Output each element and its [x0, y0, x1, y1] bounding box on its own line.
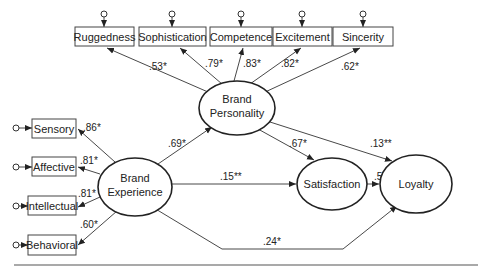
- indicator-label: Affective: [33, 161, 75, 173]
- latent-brand-experience: Brand Experience: [98, 158, 172, 216]
- indicator-ruggedness: Ruggedness: [74, 11, 136, 46]
- path-coefficient: .67*: [289, 138, 307, 149]
- sem-diagram: Ruggedness Sophistication Competence Exc…: [0, 0, 487, 271]
- error-term-icon: [169, 11, 175, 17]
- indicator-affective: Affective: [13, 157, 76, 176]
- loading-value: .83*: [243, 58, 261, 69]
- indicator-sophistication: Sophistication: [138, 11, 207, 46]
- path-coefficient: .24*: [263, 236, 281, 247]
- experience-indicators: Sensory Affective Intellectual Behaviora…: [13, 119, 78, 255]
- loading-value: .79*: [205, 58, 223, 69]
- latent-satisfaction: Satisfaction: [297, 158, 367, 210]
- indicator-behavioral: Behavioral: [13, 235, 78, 255]
- path-coefficient: .13**: [370, 138, 392, 149]
- error-term-icon: [13, 164, 19, 170]
- indicator-excitement: Excitement: [273, 11, 332, 46]
- loading-arrow-competence: [234, 48, 243, 81]
- indicator-competence: Competence: [210, 11, 272, 46]
- latent-label-line2: Experience: [107, 186, 162, 198]
- error-term-icon: [13, 242, 19, 248]
- indicator-intellectual: Intellectual: [13, 196, 78, 215]
- latent-label-line2: Personality: [210, 107, 265, 119]
- loading-value: .81*: [80, 155, 98, 166]
- path-coefficient: .69*: [168, 138, 186, 149]
- indicator-label: Sophistication: [138, 31, 207, 43]
- path-coefficient: .15**: [220, 171, 242, 182]
- indicator-label: Ruggedness: [74, 31, 136, 43]
- error-term-icon: [13, 125, 19, 131]
- error-term-icon: [360, 11, 366, 17]
- loading-value: .82*: [281, 58, 299, 69]
- latent-label: Satisfaction: [304, 178, 361, 190]
- loading-value: .53*: [149, 61, 167, 72]
- indicator-label: Behavioral: [26, 239, 78, 251]
- latent-brand-personality: Brand Personality: [199, 81, 275, 135]
- indicator-label: Excitement: [275, 31, 329, 43]
- indicator-label: Intellectual: [26, 200, 79, 212]
- loading-value: .81*: [78, 188, 96, 199]
- error-term-icon: [101, 11, 107, 17]
- loading-value: .62*: [341, 61, 359, 72]
- latent-loyalty: Loyalty: [380, 155, 452, 213]
- latent-label: Loyalty: [399, 178, 434, 190]
- indicator-label: Sensory: [34, 123, 75, 135]
- error-term-icon: [299, 11, 305, 17]
- indicator-label: Competence: [210, 31, 272, 43]
- indicator-sincerity: Sincerity: [333, 11, 393, 46]
- personality-indicators: Ruggedness Sophistication Competence Exc…: [74, 11, 393, 46]
- error-term-icon: [13, 203, 19, 209]
- loading-value: .60*: [80, 219, 98, 230]
- latent-label-line1: Brand: [120, 172, 149, 184]
- error-term-icon: [238, 11, 244, 17]
- loading-value: .86*: [83, 122, 101, 133]
- indicator-label: Sincerity: [342, 31, 385, 43]
- loading-arrow-affective: [78, 167, 100, 174]
- latent-label-line1: Brand: [222, 93, 251, 105]
- indicator-sensory: Sensory: [13, 119, 76, 138]
